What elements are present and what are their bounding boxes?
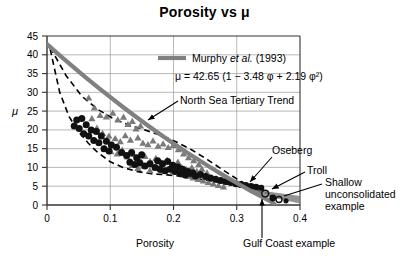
y-axis-label: μ: [11, 105, 18, 117]
annotation-oseberg: Oseberg: [272, 144, 312, 156]
y-tick-label: 15: [27, 143, 39, 154]
x-tick-label: 0.3: [230, 213, 244, 224]
y-axis-tick-labels: 0 5 10 15 20 25 30 35 40 45: [27, 31, 39, 211]
annotation-north-sea-tertiary-trend: North Sea Tertiary Trend: [180, 94, 294, 106]
y-tick-label: 30: [27, 87, 39, 98]
annotation-shallow-line3: example: [325, 200, 365, 212]
annotation-shallow-line1: Shallow: [325, 176, 362, 188]
y-tick-label: 45: [27, 31, 39, 42]
annotation-shallow-line2: unconsolidated: [325, 188, 396, 200]
murphy-equation: μ = 42.65 (1 − 3.48 φ + 2.19 φ²): [175, 70, 323, 82]
legend-label-murphy: Murphy et al. (1993): [192, 52, 286, 64]
x-tick-label: 0.1: [103, 213, 117, 224]
legend-murphy-etal: et al.: [230, 52, 253, 64]
x-tick-label: 0.4: [293, 213, 307, 224]
y-tick-label: 20: [27, 124, 39, 135]
y-axis-ticks: [42, 36, 47, 205]
y-tick-label: 5: [32, 181, 38, 192]
legend-murphy-year: (1993): [256, 52, 286, 64]
chart-figure: Porosity vs μ: [0, 0, 409, 267]
annotation-gulf-coast: Gulf Coast example: [243, 237, 335, 249]
porosity-vs-mu-chart: 0 5 10 15 20 25 30 35 40 45 0 0.1 0.2 0.…: [0, 0, 409, 267]
y-tick-label: 25: [27, 106, 39, 117]
x-tick-label: 0.2: [167, 213, 181, 224]
y-tick-label: 10: [27, 162, 39, 173]
y-tick-label: 35: [27, 68, 39, 79]
y-tick-label: 0: [32, 200, 38, 211]
x-axis-tick-labels: 0 0.1 0.2 0.3 0.4: [44, 213, 307, 224]
y-tick-label: 40: [27, 49, 39, 60]
x-tick-label: 0: [44, 213, 50, 224]
x-axis-label: Porosity: [136, 237, 175, 249]
annotation-troll: Troll: [307, 164, 327, 176]
legend-murphy-name: Murphy: [192, 52, 228, 64]
